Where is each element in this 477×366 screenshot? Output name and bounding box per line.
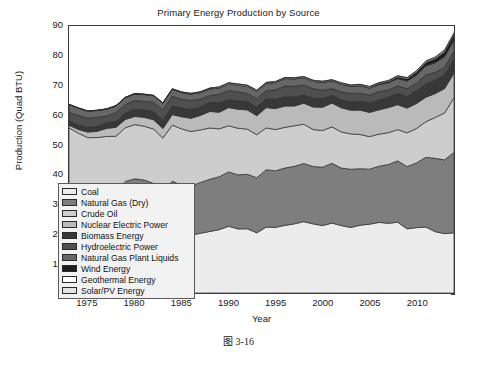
chart-legend: CoalNatural Gas (Dry)Crude OilNuclear El… bbox=[58, 183, 195, 299]
y-tick-label: 40 bbox=[37, 169, 63, 178]
legend-swatch bbox=[62, 276, 77, 283]
legend-item-solar-pv-energy[interactable]: Solar/PV Energy bbox=[62, 285, 191, 296]
legend-label: Solar/PV Energy bbox=[81, 286, 145, 296]
legend-label: Hydroelectric Power bbox=[81, 242, 158, 252]
x-tick-label: 1980 bbox=[114, 298, 154, 307]
legend-item-natural-gas-dry[interactable]: Natural Gas (Dry) bbox=[62, 197, 191, 208]
legend-label: Biomass Energy bbox=[81, 231, 144, 241]
legend-item-natural-gas-plant-liquids[interactable]: Natural Gas Plant Liquids bbox=[62, 252, 191, 263]
x-axis-label: Year bbox=[68, 313, 455, 324]
y-axis-label: Production (Quad BTU) bbox=[13, 21, 24, 221]
x-tick-label: 1975 bbox=[67, 298, 107, 307]
legend-swatch bbox=[62, 265, 77, 272]
legend-swatch bbox=[62, 243, 77, 250]
legend-item-wind-energy[interactable]: Wind Energy bbox=[62, 263, 191, 274]
legend-item-biomass-energy[interactable]: Biomass Energy bbox=[62, 230, 191, 241]
legend-item-coal[interactable]: Coal bbox=[62, 186, 191, 197]
legend-label: Natural Gas Plant Liquids bbox=[81, 253, 178, 263]
legend-swatch bbox=[62, 232, 77, 239]
legend-label: Geothermal Energy bbox=[81, 275, 156, 285]
legend-item-nuclear-electric-power[interactable]: Nuclear Electric Power bbox=[62, 219, 191, 230]
figure-container: Primary Energy Production by Source Prod… bbox=[0, 0, 477, 366]
legend-swatch bbox=[62, 199, 77, 206]
legend-swatch bbox=[62, 254, 77, 261]
y-tick-label: 80 bbox=[37, 50, 63, 59]
legend-label: Crude Oil bbox=[81, 209, 117, 219]
x-tick-label: 2010 bbox=[397, 298, 437, 307]
legend-label: Coal bbox=[81, 187, 99, 197]
x-tick-label: 1985 bbox=[161, 298, 201, 307]
x-tick-label: 2005 bbox=[350, 298, 390, 307]
legend-swatch bbox=[62, 188, 77, 195]
legend-item-geothermal-energy[interactable]: Geothermal Energy bbox=[62, 274, 191, 285]
legend-swatch bbox=[62, 287, 77, 294]
x-tick-label: 1995 bbox=[256, 298, 296, 307]
figure-caption: 图 3-16 bbox=[0, 333, 477, 348]
legend-label: Natural Gas (Dry) bbox=[81, 198, 148, 208]
legend-swatch bbox=[62, 210, 77, 217]
legend-label: Nuclear Electric Power bbox=[81, 220, 168, 230]
y-tick-label: 90 bbox=[37, 20, 63, 29]
x-tick-label: 1990 bbox=[208, 298, 248, 307]
legend-item-crude-oil[interactable]: Crude Oil bbox=[62, 208, 191, 219]
chart-title: Primary Energy Production by Source bbox=[0, 7, 477, 18]
y-tick-label: 70 bbox=[37, 80, 63, 89]
legend-item-hydroelectric-power[interactable]: Hydroelectric Power bbox=[62, 241, 191, 252]
y-tick-label: 50 bbox=[37, 140, 63, 149]
legend-label: Wind Energy bbox=[81, 264, 130, 274]
x-tick-label: 2000 bbox=[303, 298, 343, 307]
y-tick-label: 60 bbox=[37, 110, 63, 119]
legend-swatch bbox=[62, 221, 77, 228]
